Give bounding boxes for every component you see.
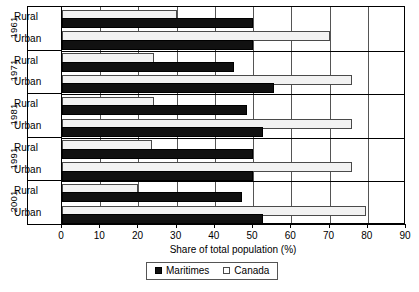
x-tick-label-0: 0	[46, 230, 76, 241]
year-bracket-tick	[27, 137, 61, 138]
chart-legend: MaritimesCanada	[146, 262, 278, 280]
bar-maritimes-1971-urban	[62, 83, 274, 93]
x-axis-line	[61, 224, 405, 225]
bar-maritimes-2001-urban	[62, 214, 263, 224]
year-bracket-tick	[27, 93, 61, 94]
x-tick-30	[176, 224, 177, 228]
bar-maritimes-1991-urban	[62, 171, 253, 181]
group-separator	[62, 94, 404, 95]
x-tick-60	[290, 224, 291, 228]
gridline-80	[368, 7, 369, 223]
legend-item-maritimes: Maritimes	[155, 265, 209, 276]
plot-area	[61, 6, 405, 224]
x-tick-label-10: 10	[84, 230, 114, 241]
bar-maritimes-1961-rural	[62, 18, 253, 28]
category-label-1981-urban: Urban	[14, 120, 59, 131]
x-tick-label-70: 70	[314, 230, 344, 241]
x-tick-90	[405, 224, 406, 228]
x-tick-40	[214, 224, 215, 228]
bar-maritimes-2001-rural	[62, 192, 242, 202]
x-tick-10	[99, 224, 100, 228]
x-tick-70	[329, 224, 330, 228]
x-axis-title: Share of total population (%)	[61, 244, 405, 255]
x-tick-label-80: 80	[352, 230, 382, 241]
category-label-2001-rural: Rural	[14, 185, 59, 196]
bar-maritimes-1971-rural	[62, 62, 234, 72]
x-tick-50	[252, 224, 253, 228]
x-tick-80	[367, 224, 368, 228]
x-tick-label-60: 60	[275, 230, 305, 241]
filled-square-icon	[155, 267, 162, 274]
category-label-1991-urban: Urban	[14, 164, 59, 175]
x-tick-label-40: 40	[199, 230, 229, 241]
bar-maritimes-1991-rural	[62, 149, 253, 159]
year-bracket-tick	[27, 50, 61, 51]
x-tick-label-20: 20	[122, 230, 152, 241]
x-tick-label-30: 30	[161, 230, 191, 241]
bar-maritimes-1981-rural	[62, 105, 247, 115]
group-separator	[62, 181, 404, 182]
year-bracket-tick	[27, 6, 61, 7]
year-bracket-tick	[27, 180, 61, 181]
group-separator	[62, 138, 404, 139]
category-label-2001-urban: Urban	[14, 207, 59, 218]
x-tick-20	[137, 224, 138, 228]
chart-figure: 19611971198119912001 RuralUrbanRuralUrba…	[0, 0, 419, 292]
category-label-1981-rural: Rural	[14, 98, 59, 109]
bar-maritimes-1961-urban	[62, 40, 253, 50]
category-label-1961-urban: Urban	[14, 33, 59, 44]
category-label-1971-rural: Rural	[14, 55, 59, 66]
year-bracket-tick	[27, 224, 61, 225]
category-label-1971-urban: Urban	[14, 76, 59, 87]
x-tick-label-90: 90	[390, 230, 419, 241]
category-label-1961-rural: Rural	[14, 11, 59, 22]
legend-label: Canada	[234, 265, 269, 276]
gridline-70	[330, 7, 331, 223]
legend-label: Maritimes	[166, 265, 209, 276]
x-tick-label-50: 50	[237, 230, 267, 241]
bar-maritimes-1981-urban	[62, 127, 263, 137]
group-separator	[62, 51, 404, 52]
legend-item-canada: Canada	[223, 265, 269, 276]
hollow-square-icon	[223, 267, 230, 274]
category-label-1991-rural: Rural	[14, 142, 59, 153]
x-tick-0	[61, 224, 62, 228]
